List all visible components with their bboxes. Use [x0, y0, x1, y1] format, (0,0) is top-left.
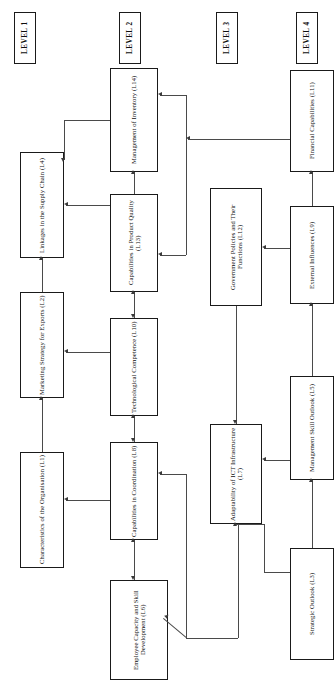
arrowhead-L5-to-L9	[309, 302, 313, 306]
edge-L3-to-L5	[312, 480, 313, 548]
arrowhead-L9-to-L11	[309, 170, 313, 174]
node-L1[interactable]: Characteristics of the Organisation (L1)	[20, 452, 64, 568]
edge-L3-to-L7	[264, 572, 290, 573]
level-tag-2: LEVEL 2	[119, 12, 141, 64]
edge-L12-to-L14-run	[160, 95, 186, 96]
node-L12[interactable]: Government Policies and Their Functions …	[210, 188, 262, 306]
arrowhead-L3-to-L5	[309, 478, 313, 482]
arrowhead-L13-to-L10	[131, 314, 135, 318]
arrowhead-L14-to-L4	[61, 158, 65, 162]
edge-L6-L8	[134, 540, 135, 580]
edge-L3-to-L7-riser	[264, 524, 265, 572]
edge-L9-to-L11	[312, 172, 313, 206]
edge-L12-to-L13-run	[160, 255, 186, 256]
arrowhead-L6-to-L8	[131, 538, 135, 542]
node-L5[interactable]: Management Skill Outlook (L5)	[290, 376, 334, 480]
node-L13[interactable]: Capabilities in Product Quality (L13)	[110, 194, 158, 292]
arrowhead-L13-to-L4	[64, 202, 68, 206]
arrowhead-L12-to-L14	[158, 92, 162, 96]
node-L8[interactable]: Capabilities in Coordination (L8)	[110, 442, 158, 540]
edge-L7-to-L6-riser	[238, 524, 239, 638]
node-L6[interactable]: Employee Capacity and Skill Development …	[110, 580, 168, 680]
node-L11[interactable]: Financial Capabilities (L11)	[290, 70, 334, 172]
edge-L3-to-L7-run	[236, 524, 264, 525]
arrowhead-L2-to-L4	[39, 256, 43, 260]
edge-L13-to-L14	[134, 172, 135, 194]
node-L10[interactable]: Technological Competence (L10)	[110, 318, 158, 416]
arrowhead-L8-to-L6	[131, 576, 135, 580]
edge-L7-to-L8-run	[160, 474, 186, 475]
level-tag-3: LEVEL 3	[216, 12, 238, 64]
arrowhead-L7-to-L8	[158, 471, 162, 475]
level-tag-4: LEVEL 4	[296, 12, 318, 64]
node-L7[interactable]: Adaptability of ICT Infrastructure (L7)	[210, 424, 262, 524]
node-L3[interactable]: Strategic Outlook (L3)	[290, 548, 334, 660]
node-L2[interactable]: Marketing Strategy for Exports (L2)	[20, 292, 64, 398]
arrowhead-L13-to-L14	[131, 170, 135, 174]
edge-L9-to-L12	[264, 248, 290, 249]
arrowhead-L12-to-L13	[158, 252, 162, 256]
arrowhead-L8-to-L10	[131, 414, 135, 418]
edge-L11-to-L14-run	[188, 139, 264, 140]
node-L9[interactable]: External Influences (L9)	[290, 206, 334, 304]
edge-L7-to-L8-riser	[186, 474, 187, 638]
edge-L1-to-L2	[42, 398, 43, 452]
arrowhead-L8-to-L1	[64, 497, 68, 501]
edge-L2-to-L4	[42, 258, 43, 292]
arrowhead-L1-to-L2	[39, 396, 43, 400]
edge-L12-to-L13-riser	[186, 95, 187, 255]
arrowhead-L12-to-L7	[233, 420, 237, 424]
edge-L12-to-L7	[236, 306, 237, 424]
edge-L14-to-L4-riser	[64, 120, 65, 160]
edge-L10-to-L2	[66, 352, 110, 353]
arrowhead-L10-to-L2	[64, 349, 68, 353]
node-L4[interactable]: Linkages in the Supply Chain (L4)	[20, 152, 64, 258]
edge-L5-to-L7	[264, 460, 290, 461]
arrowhead-L10-to-L8	[131, 438, 135, 442]
edge-L7-to-L6-run	[186, 638, 238, 639]
arrowhead-L10-to-L13	[131, 290, 135, 294]
arrowhead-L5-to-L7	[262, 457, 266, 461]
ism-diagram-canvas: LEVEL 1 LEVEL 2 LEVEL 3 LEVEL 4 Linkages…	[0, 0, 336, 688]
edge-L11-to-L14	[264, 139, 290, 140]
edge-L13-to-L4	[66, 205, 110, 206]
arrowhead-L9-to-L12	[262, 245, 266, 249]
level-tag-1: LEVEL 1	[14, 12, 36, 64]
edge-L14-to-L4	[64, 120, 110, 121]
edge-L5-to-L9	[312, 304, 313, 376]
edge-L8-to-L1	[66, 500, 110, 501]
node-L14[interactable]: Management of Inventory (L14)	[110, 68, 158, 172]
